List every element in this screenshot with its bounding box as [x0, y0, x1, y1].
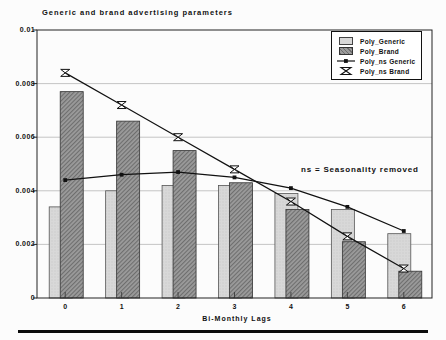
x-tick-label: 5 — [337, 303, 357, 310]
hourglass-marker — [230, 166, 239, 173]
legend-item-label: Poly_Brand — [360, 48, 399, 55]
legend-item: Poly_Generic — [337, 36, 419, 46]
bar-dark-icon — [337, 47, 355, 55]
y-tick-label: 0.004 — [15, 187, 35, 194]
x-tick-label: 4 — [281, 303, 301, 310]
y-tick-label: 0.008 — [15, 80, 35, 87]
legend-item-label: Poly_ns Generic — [360, 58, 415, 65]
line-square-glyph — [337, 56, 355, 66]
legend-item: Poly_ns Generic — [337, 56, 419, 66]
x-tick-label: 0 — [55, 303, 75, 310]
y-tick-label: 0.01 — [20, 26, 35, 33]
x-tick-label: 3 — [225, 303, 245, 310]
x-tick-label: 6 — [394, 303, 414, 310]
legend-item-label: Poly_ns Brand — [360, 68, 409, 75]
bar-poly_brand — [342, 242, 365, 298]
square-marker — [289, 186, 293, 190]
bar-light-swatch — [339, 37, 353, 45]
bar-poly_brand — [117, 121, 140, 298]
line-hourglass-glyph — [337, 66, 355, 76]
square-marker — [402, 229, 406, 233]
legend-box: Poly_GenericPoly_BrandPoly_ns GenericPol… — [331, 31, 422, 80]
square-marker — [120, 173, 124, 177]
x-tick-label: 2 — [168, 303, 188, 310]
legend-item: Poly_ns Brand — [337, 66, 419, 76]
x-axis-title: Bi-Monthly Lags — [182, 315, 292, 322]
y-tick-label: 0.002 — [15, 240, 35, 247]
legend-item: Poly_Brand — [337, 46, 419, 56]
bottom-rule — [18, 330, 428, 333]
legend-item-label: Poly_Generic — [360, 38, 405, 45]
bar-light-icon — [337, 37, 355, 45]
bar-poly_brand — [286, 210, 309, 298]
legend-hourglass-marker — [341, 68, 351, 75]
square-marker — [63, 178, 67, 182]
legend-square-marker — [344, 59, 348, 63]
square-marker — [345, 205, 349, 209]
hourglass-marker — [117, 102, 126, 109]
chart-figure: Generic and brand advertising parameters… — [0, 0, 446, 340]
hourglass-marker — [61, 69, 70, 76]
y-tick-label: 0 — [31, 294, 35, 301]
ns-annotation: ns = Seasonality removed — [301, 165, 419, 174]
bar-poly_brand — [60, 92, 83, 298]
line-hourglass-icon — [337, 66, 355, 76]
bar-dark-swatch — [339, 47, 353, 55]
line-square-icon — [337, 56, 355, 66]
square-marker — [233, 176, 237, 180]
bar-poly_brand — [230, 183, 253, 298]
y-tick-label: 0.006 — [15, 133, 35, 140]
x-tick-label: 1 — [112, 303, 132, 310]
bar-poly_brand — [399, 271, 422, 298]
square-marker — [176, 170, 180, 174]
bar-series — [49, 92, 422, 298]
